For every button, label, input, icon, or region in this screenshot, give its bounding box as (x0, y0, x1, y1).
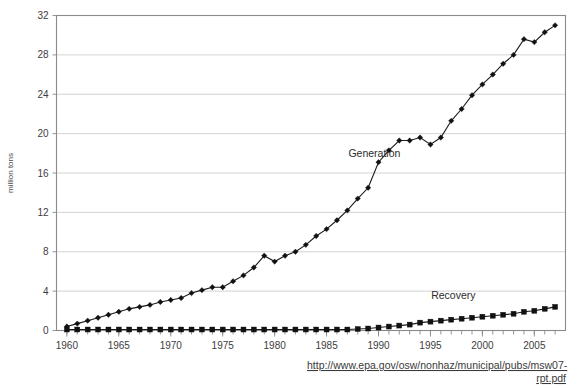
data-point-recovery-1975 (220, 327, 225, 332)
data-point-recovery-1974 (210, 327, 215, 332)
x-tick-label-1960: 1960 (56, 340, 79, 351)
x-tick-label-1995: 1995 (419, 340, 442, 351)
data-point-recovery-1984 (314, 327, 319, 332)
y-axis-label: million tons (6, 153, 15, 193)
data-point-recovery-1981 (283, 327, 288, 332)
source-url-line1[interactable]: http://www.epa.gov/osw/nonhaz/municipal/… (307, 359, 568, 371)
data-point-recovery-2003 (511, 311, 516, 316)
data-point-recovery-1983 (303, 327, 308, 332)
y-tick-label-24: 24 (37, 89, 49, 100)
data-point-recovery-2006 (542, 306, 547, 311)
series-label-generation: Generation (348, 147, 400, 159)
data-point-recovery-1996 (438, 318, 443, 323)
data-point-recovery-1980 (272, 327, 277, 332)
data-point-recovery-1999 (470, 315, 475, 320)
data-point-recovery-1988 (355, 327, 360, 332)
x-tick-label-2000: 2000 (471, 340, 494, 351)
data-point-recovery-2007 (553, 304, 558, 309)
data-point-recovery-1997 (449, 317, 454, 322)
data-point-recovery-2004 (521, 309, 526, 314)
data-point-recovery-2000 (480, 314, 485, 319)
data-point-recovery-1977 (241, 327, 246, 332)
data-point-recovery-1995 (428, 319, 433, 324)
data-point-recovery-1962 (85, 327, 90, 332)
y-tick-label-0: 0 (43, 325, 49, 336)
data-point-recovery-1969 (158, 327, 163, 332)
data-point-recovery-1989 (366, 326, 371, 331)
data-point-recovery-1991 (386, 324, 391, 329)
data-point-recovery-1987 (345, 327, 350, 332)
data-point-recovery-2002 (501, 312, 506, 317)
data-point-recovery-1960 (64, 327, 69, 332)
x-tick-label-1975: 1975 (212, 340, 235, 351)
y-tick-label-8: 8 (43, 246, 49, 257)
x-tick-label-1970: 1970 (160, 340, 183, 351)
data-point-recovery-1986 (334, 327, 339, 332)
data-point-recovery-1985 (324, 327, 329, 332)
data-point-recovery-2001 (490, 313, 495, 318)
data-point-recovery-1963 (96, 327, 101, 332)
data-point-recovery-1966 (127, 327, 132, 332)
source-url-line2[interactable]: rpt.pdf (536, 372, 566, 384)
data-point-recovery-1976 (231, 327, 236, 332)
x-tick-label-1985: 1985 (315, 340, 338, 351)
y-tick-label-4: 4 (43, 286, 49, 297)
data-point-recovery-1965 (116, 327, 121, 332)
data-point-recovery-1964 (106, 327, 111, 332)
x-tick-label-1990: 1990 (367, 340, 390, 351)
data-point-recovery-1971 (179, 327, 184, 332)
data-point-recovery-1970 (168, 327, 173, 332)
data-point-recovery-1993 (407, 322, 412, 327)
data-point-recovery-1978 (251, 327, 256, 332)
x-tick-label-2005: 2005 (523, 340, 546, 351)
data-point-recovery-1998 (459, 316, 464, 321)
data-point-recovery-1982 (293, 327, 298, 332)
data-point-recovery-1979 (262, 327, 267, 332)
x-tick-label-1980: 1980 (264, 340, 287, 351)
data-point-recovery-1972 (189, 327, 194, 332)
series-label-recovery: Recovery (431, 289, 476, 301)
y-tick-label-32: 32 (37, 10, 49, 21)
data-point-recovery-1990 (376, 325, 381, 330)
y-tick-label-12: 12 (37, 207, 49, 218)
data-point-recovery-1967 (137, 327, 142, 332)
y-tick-label-20: 20 (37, 128, 49, 139)
y-tick-label-16: 16 (37, 168, 49, 179)
chart-figure: 1960196519701975198019851990199520002005… (0, 0, 579, 388)
data-point-recovery-2005 (532, 308, 537, 313)
data-point-recovery-1992 (397, 323, 402, 328)
y-tick-label-28: 28 (37, 49, 49, 60)
data-point-recovery-1994 (418, 320, 423, 325)
data-point-recovery-1973 (199, 327, 204, 332)
data-point-recovery-1961 (75, 327, 80, 332)
data-point-recovery-1968 (147, 327, 152, 332)
x-tick-label-1965: 1965 (108, 340, 131, 351)
